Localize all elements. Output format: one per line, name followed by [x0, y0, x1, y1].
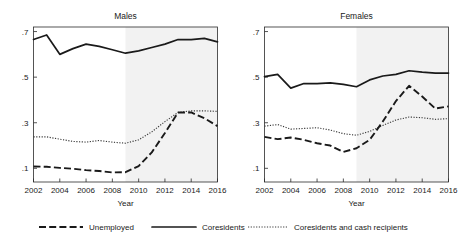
x-axis-title-females: Year	[348, 199, 365, 208]
y-tick-label: .3	[22, 119, 29, 128]
y-tick-label: .5	[22, 73, 29, 82]
legend-label-unemployed: Unemployed	[89, 223, 134, 232]
x-tick-label: 2006	[77, 186, 95, 195]
y-tick-label: .1	[22, 164, 29, 173]
x-tick-label: 2004	[51, 186, 69, 195]
x-tick-label: 2002	[25, 186, 43, 195]
y-tick-label: .3	[253, 119, 260, 128]
two-panel-line-chart: Males.1.3.5.7200220042006200820102012201…	[0, 0, 464, 244]
x-axis-title-males: Year	[117, 199, 134, 208]
x-tick-label: 2008	[334, 186, 352, 195]
panel-title-females: Females	[340, 11, 373, 21]
x-tick-label: 2004	[282, 186, 300, 195]
chart-canvas: Males.1.3.5.7200220042006200820102012201…	[0, 0, 464, 244]
x-tick-label: 2008	[103, 186, 121, 195]
y-tick-label: .5	[253, 73, 260, 82]
y-tick-label: .7	[253, 28, 260, 37]
legend-label-coresidents: Coresidents	[202, 223, 245, 232]
y-tick-label: .1	[253, 164, 260, 173]
x-tick-label: 2012	[156, 186, 174, 195]
x-tick-label: 2006	[308, 186, 326, 195]
panel-title-males: Males	[114, 11, 137, 21]
x-tick-label: 2012	[387, 186, 405, 195]
x-tick-label: 2016	[209, 186, 227, 195]
x-tick-label: 2002	[256, 186, 274, 195]
x-tick-label: 2016	[440, 186, 458, 195]
x-tick-label: 2014	[182, 186, 200, 195]
x-tick-label: 2010	[130, 186, 148, 195]
recession-shading-females	[357, 27, 449, 182]
y-tick-label: .7	[22, 28, 29, 37]
x-tick-label: 2014	[413, 186, 431, 195]
legend-label-coresidents-and-cash-recipients: Coresidents and cash recipients	[294, 223, 408, 232]
x-tick-label: 2010	[361, 186, 379, 195]
